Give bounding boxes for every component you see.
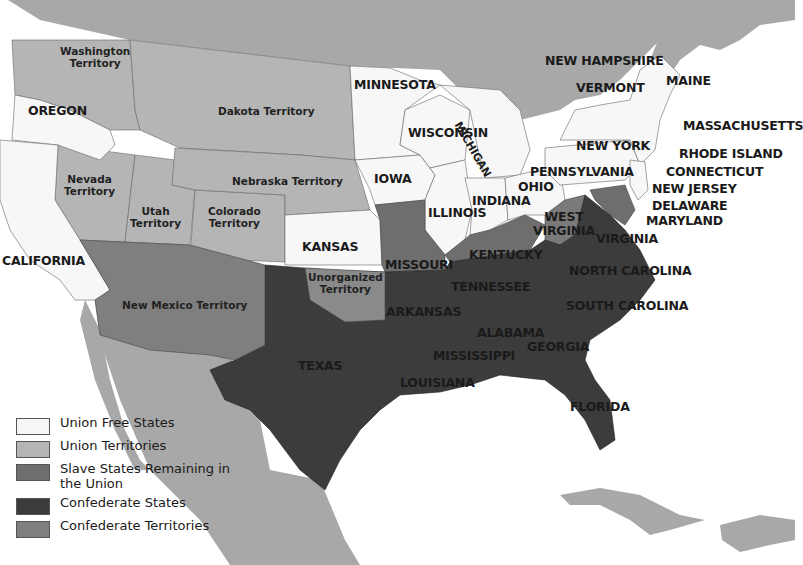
label-mississippi: MISSISSIPPI <box>433 349 515 363</box>
legend-item-union-territories: Union Territories <box>16 439 230 458</box>
legend-label: Confederate States <box>60 496 230 511</box>
label-west-virginia: WEST VIRGINIA <box>533 210 595 238</box>
label-unorganized: Unorganized Territory <box>308 272 383 295</box>
legend-label: Union Territories <box>60 439 230 454</box>
swatch-slave-states-union <box>16 464 50 481</box>
label-delaware: DELAWARE <box>652 199 727 213</box>
label-new-york: NEW YORK <box>576 139 650 153</box>
label-minnesota: MINNESOTA <box>354 78 436 92</box>
label-louisiana: LOUISIANA <box>400 376 475 390</box>
label-maine: MAINE <box>666 74 711 88</box>
legend-label: Slave States Remaining in the Union <box>60 462 230 492</box>
label-iowa: IOWA <box>374 172 411 186</box>
label-north-carolina: NORTH CAROLINA <box>569 264 692 278</box>
swatch-confederate-states <box>16 498 50 515</box>
hispaniola <box>720 515 795 552</box>
legend-item-union-free-states: Union Free States <box>16 416 230 435</box>
label-washington: Washington Territory <box>60 46 130 69</box>
legend-item-slave-states-union: Slave States Remaining in the Union <box>16 462 230 492</box>
label-new-jersey: NEW JERSEY <box>652 182 737 196</box>
label-texas: TEXAS <box>298 359 342 373</box>
label-illinois: ILLINOIS <box>428 206 486 220</box>
swatch-union-territories <box>16 441 50 458</box>
label-arkansas: ARKANSAS <box>386 305 461 319</box>
label-rhode-island: RHODE ISLAND <box>679 147 783 161</box>
label-pennsylvania: PENNSYLVANIA <box>530 165 634 179</box>
label-connecticut: CONNECTICUT <box>666 165 763 179</box>
legend-item-confederate-territories: Confederate Territories <box>16 519 230 538</box>
map-legend: Union Free States Union Territories Slav… <box>16 416 230 542</box>
label-massachusetts: MASSACHUSETTS <box>683 119 803 133</box>
label-nebraska: Nebraska Territory <box>232 176 343 188</box>
label-nevada: Nevada Territory <box>64 174 115 197</box>
label-missouri: MISSOURI <box>385 258 453 272</box>
label-new-hampshire: NEW HAMPSHIRE <box>545 54 664 68</box>
label-tennessee: TENNESSEE <box>451 280 530 294</box>
cuba <box>560 488 705 535</box>
legend-item-confederate-states: Confederate States <box>16 496 230 515</box>
label-kentucky: KENTUCKY <box>469 248 543 262</box>
label-utah: Utah Territory <box>130 206 181 229</box>
label-colorado: Colorado Territory <box>208 206 261 229</box>
label-vermont: VERMONT <box>576 81 645 95</box>
legend-label: Confederate Territories <box>60 519 230 534</box>
swatch-union-free <box>16 418 50 435</box>
kansas <box>285 210 382 265</box>
label-ohio: OHIO <box>518 180 554 194</box>
legend-label: Union Free States <box>60 416 230 431</box>
label-virginia: VIRGINIA <box>596 232 658 246</box>
label-indiana: INDIANA <box>472 194 531 208</box>
swatch-confederate-territories <box>16 521 50 538</box>
label-new-mexico: New Mexico Territory <box>122 300 247 312</box>
label-florida: FLORIDA <box>570 400 630 414</box>
label-dakota: Dakota Territory <box>218 106 315 118</box>
label-south-carolina: SOUTH CAROLINA <box>566 299 688 313</box>
label-maryland: MARYLAND <box>646 214 723 228</box>
label-wisconsin: WISCONSIN <box>408 126 488 140</box>
label-california: CALIFORNIA <box>2 254 85 268</box>
label-kansas: KANSAS <box>302 240 358 254</box>
label-georgia: GEORGIA <box>527 340 589 354</box>
label-oregon: OREGON <box>28 104 87 118</box>
label-alabama: ALABAMA <box>477 326 544 340</box>
